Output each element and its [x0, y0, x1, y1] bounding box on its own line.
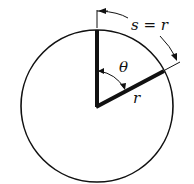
theta-label: θ: [119, 58, 128, 76]
arrowhead-left-icon: [98, 8, 106, 14]
radian-diagram: s = r θ r: [0, 0, 194, 184]
slanted-radius: [96, 71, 164, 107]
arrowhead-right-icon: [171, 53, 177, 61]
radius-label: r: [133, 89, 141, 107]
right-tick: [165, 62, 180, 70]
arc-label: s = r: [131, 16, 169, 34]
arrowhead-theta-bottom-icon: [120, 83, 126, 90]
